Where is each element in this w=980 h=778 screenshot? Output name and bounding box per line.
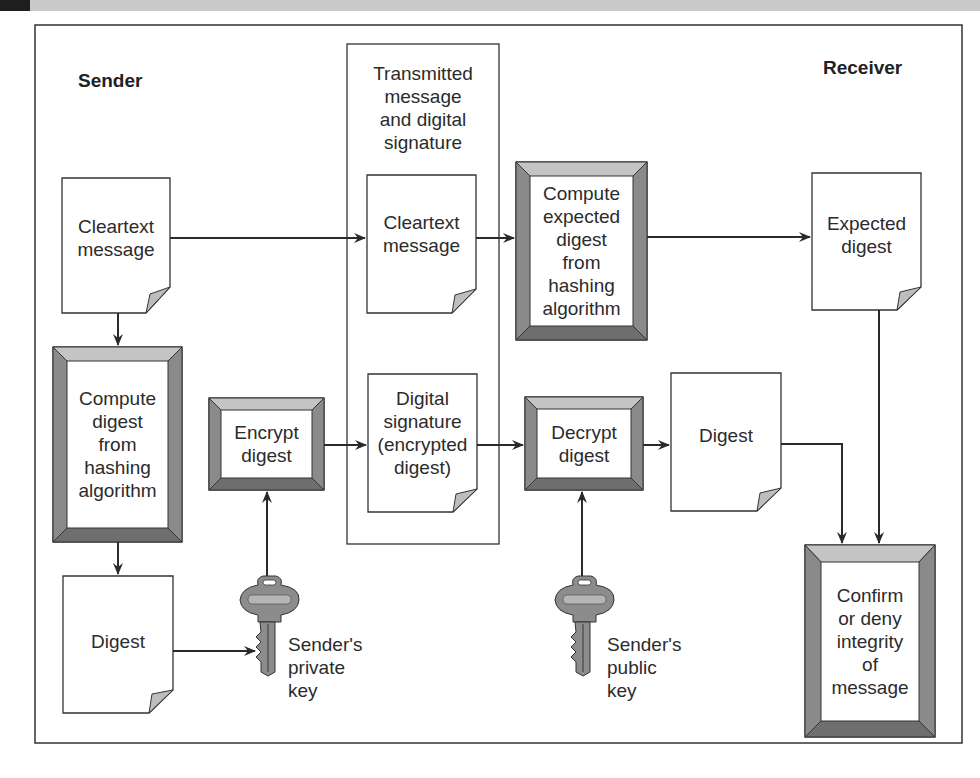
label-sender-compute-digest: Compute digest from hashing algorithm — [67, 361, 168, 528]
label-sender-digest: Digest — [63, 576, 173, 706]
label-transmitted-signature: Digital signature (encrypted digest) — [368, 374, 477, 492]
label-expected-digest: Expected digest — [812, 173, 921, 297]
label-encrypt-digest: Encrypt digest — [221, 410, 312, 478]
label-private-key: Sender's private key — [288, 631, 388, 703]
heading-transmitted: Transmitted message and digital signatur… — [347, 58, 499, 158]
label-receiver-digest: Digest — [671, 373, 781, 497]
label-sender-cleartext: Cleartext message — [62, 178, 170, 298]
label-public-key: Sender's public key — [607, 631, 707, 703]
label-confirm-integrity: Confirm or deny integrity of message — [821, 562, 919, 721]
label-transmitted-cleartext: Cleartext message — [367, 175, 476, 293]
key-public — [555, 576, 614, 676]
heading-sender: Sender — [78, 70, 142, 92]
label-compute-expected: Compute expected digest from hashing alg… — [530, 176, 633, 326]
label-decrypt-digest: Decrypt digest — [537, 409, 631, 478]
arrow-digest-to-confirm — [781, 444, 842, 543]
heading-receiver: Receiver — [823, 57, 902, 79]
